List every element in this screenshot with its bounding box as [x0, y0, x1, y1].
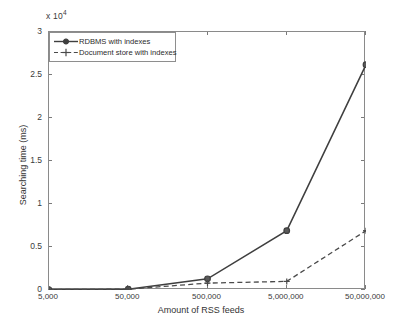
y-axis-exponent-label: x 104	[46, 9, 67, 21]
series-canvas	[49, 32, 366, 290]
legend-entry-rdbms: RDBMS with indexes	[53, 36, 171, 47]
legend-label-rdbms: RDBMS with indexes	[79, 36, 150, 47]
x-axis-tick-label: 500,000	[192, 292, 221, 301]
plot-area	[48, 31, 365, 289]
y-axis-title: Searching time (ms)	[18, 95, 28, 235]
y-axis-tick-label: 3	[18, 26, 42, 36]
x-axis-title: Amount of RSS feeds	[0, 305, 402, 315]
series-1-marker-point	[363, 62, 366, 68]
y-axis-exponent-power: 4	[63, 9, 67, 16]
legend-entry-document-store: Document store with indexes	[53, 47, 171, 58]
x-axis-tick-label: 5,000,000	[268, 292, 304, 301]
chart-legend: RDBMS with indexes Document store with i…	[49, 32, 176, 62]
legend-marker-circle-icon	[53, 36, 79, 47]
y-axis-tick-label: 2.5	[18, 69, 42, 79]
x-axis-tick-label: 50,000	[115, 292, 139, 301]
legend-label-document-store: Document store with indexes	[79, 47, 177, 58]
x-axis-tick-label: 5,000	[38, 292, 58, 301]
y-axis-exponent-base: x 10	[46, 11, 63, 21]
x-axis-tick-label: 50,000,000	[345, 292, 385, 301]
legend-marker-plus-icon	[53, 47, 79, 58]
y-axis-tick-label: 0.5	[18, 241, 42, 251]
chart-figure: x 104 00.511.522.53 5,00050,000500,0005,…	[0, 0, 402, 327]
series-1-marker-point	[284, 228, 290, 234]
series-line-1	[49, 65, 366, 290]
